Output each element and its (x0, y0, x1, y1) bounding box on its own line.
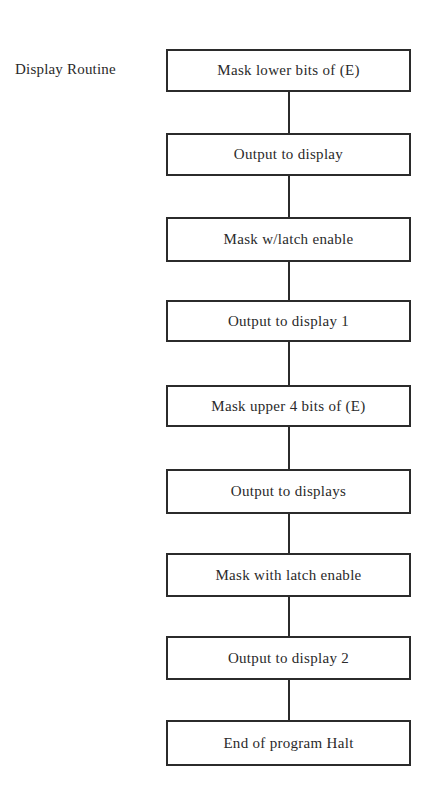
step-text: Output to displays (231, 483, 346, 500)
connector-5-6 (288, 426, 290, 470)
connector-3-4 (288, 261, 290, 301)
step-text: Output to display (234, 146, 343, 163)
connector-8-9 (288, 679, 290, 721)
routine-label: Display Routine (15, 61, 116, 78)
step-end-program-halt: End of program Halt (166, 720, 411, 766)
step-output-to-display: Output to display (166, 133, 411, 176)
connector-1-2 (288, 91, 290, 134)
step-mask-latch-enable: Mask w/latch enable (166, 217, 411, 262)
step-text: Output to display 1 (228, 313, 349, 330)
connector-2-3 (288, 175, 290, 218)
step-output-to-display-1: Output to display 1 (166, 300, 411, 342)
connector-4-5 (288, 341, 290, 386)
step-text: Mask lower bits of (E) (217, 62, 359, 79)
step-text: End of program Halt (223, 735, 353, 752)
connector-7-8 (288, 596, 290, 637)
connector-6-7 (288, 513, 290, 554)
step-text: Output to display 2 (228, 650, 349, 667)
step-mask-lower-bits: Mask lower bits of (E) (166, 49, 411, 92)
step-text: Mask with latch enable (215, 567, 361, 584)
step-text: Mask upper 4 bits of (E) (211, 398, 365, 415)
step-output-to-display-2: Output to display 2 (166, 636, 411, 680)
step-output-to-displays: Output to displays (166, 469, 411, 514)
step-mask-upper-bits: Mask upper 4 bits of (E) (166, 385, 411, 427)
step-text: Mask w/latch enable (224, 231, 354, 248)
step-mask-with-latch-enable: Mask with latch enable (166, 553, 411, 597)
